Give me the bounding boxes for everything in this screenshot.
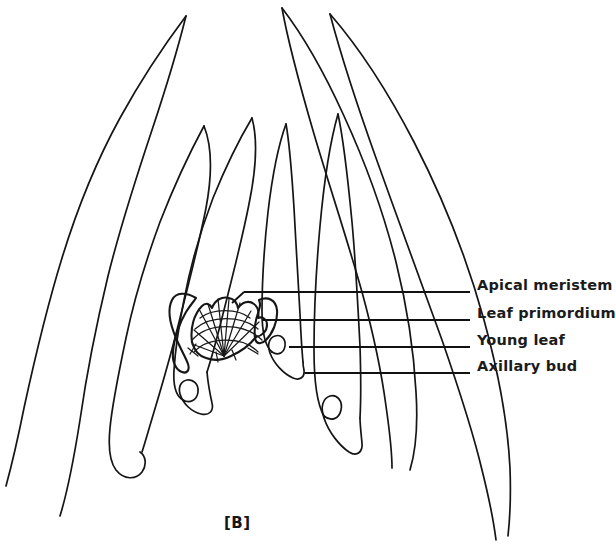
left-outer-leaf-outline	[6, 16, 186, 486]
right-second-leaf-inner-edge	[314, 114, 338, 416]
left-second-leaf-outer-edge	[109, 126, 204, 478]
right-inner-leaf-outer-edge	[286, 124, 303, 362]
right-inner-leaf-inner-edge	[262, 124, 286, 352]
right-third-leaf-inner-edge	[282, 8, 392, 468]
left-second-leaf-inner-edge	[142, 126, 210, 452]
label-apical-meristem: Apical meristem	[477, 278, 613, 293]
left-axillary-bud-hook-outer	[179, 372, 212, 414]
meristem-arc-line-1	[200, 311, 250, 319]
right-second-axillary-bud-hook	[322, 396, 362, 454]
leader-connector-meristem	[232, 292, 244, 303]
left-outer-leaf-inner-edge	[60, 16, 186, 516]
label-leaf-primordium: Leaf primordium	[477, 306, 616, 321]
label-young-leaf: Young leaf	[477, 333, 565, 348]
label-axillary-bud: Axillary bud	[477, 359, 577, 374]
panel-caption: [B]	[224, 516, 251, 531]
right-inner-axillary-bud-hook	[269, 336, 305, 379]
